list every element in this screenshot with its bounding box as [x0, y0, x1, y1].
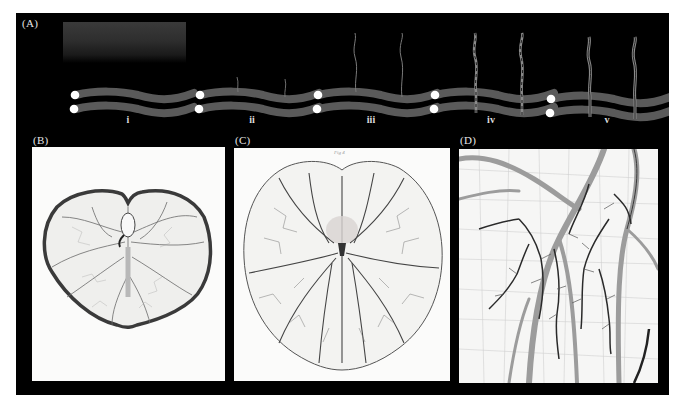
- panel-label-c: (C): [235, 135, 251, 146]
- panel-label-b: (B): [33, 135, 49, 146]
- panel-d-image: [459, 149, 658, 383]
- stage-label-i: i: [113, 115, 143, 125]
- stage-ii-schematic: [195, 77, 319, 113]
- figure-frame: (A): [16, 13, 669, 395]
- panel-b-image: [32, 147, 225, 381]
- stage-i-schematic: [70, 91, 194, 114]
- stage-label-ii: ii: [237, 115, 267, 125]
- panel-label-d: (D): [460, 135, 476, 146]
- plate-caption: Fig 4: [334, 150, 345, 155]
- panel-c-image: Fig 4: [234, 148, 450, 381]
- stage-label-iv: iv: [476, 115, 506, 125]
- stage-label-v: v: [592, 115, 622, 125]
- stage-iv-schematic: [430, 33, 554, 115]
- stage-iii-schematic: [313, 33, 437, 113]
- stage-label-iii: iii: [356, 115, 386, 125]
- stage-v-schematic: [546, 37, 669, 119]
